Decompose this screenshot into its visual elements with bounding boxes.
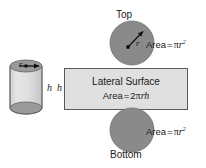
cylinder-surface-area-diagram: Top Bottom h h r r Area=πr2 Area=πr2 Lat… (0, 0, 206, 168)
top-label: Top (116, 10, 132, 20)
area-word-lateral: Area (103, 90, 123, 101)
height-variable-lateral: h (144, 90, 149, 101)
height-label-left: h (47, 83, 52, 93)
cylinder-3d-group (10, 60, 42, 114)
bottom-circle-area-formula: Area=πr2 (146, 126, 186, 137)
lateral-surface-text-block: Lateral Surface Area=2πrh (64, 76, 188, 101)
height-label-right: h (57, 83, 62, 93)
lateral-surface-title: Lateral Surface (64, 76, 188, 87)
top-circle-area-formula: Area=πr2 (146, 39, 186, 50)
equals-sign-bottom: = (166, 126, 174, 137)
equals-sign-top: = (166, 39, 174, 50)
cylinder-radius-label: r (19, 60, 23, 69)
area-word-top: Area (146, 39, 166, 50)
exponent-bottom: 2 (183, 125, 186, 132)
area-word-bottom: Area (146, 126, 166, 137)
exponent-top: 2 (183, 38, 186, 45)
top-circle-radius-label: r (136, 39, 140, 48)
lateral-surface-area-formula: Area=2πrh (64, 90, 188, 101)
bottom-label: Bottom (110, 150, 142, 160)
